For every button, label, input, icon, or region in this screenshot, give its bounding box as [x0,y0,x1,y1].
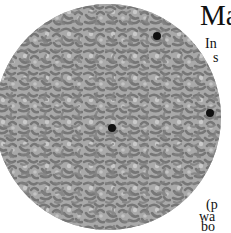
dark-inclusion [108,124,116,132]
blood-smear-texture [0,4,221,230]
heading-fragment: Ma [200,0,231,32]
micrograph-image [0,4,221,230]
body-text-fragment: co [201,231,214,233]
dark-inclusion [153,32,161,40]
dark-inclusion [206,109,214,117]
body-text-fragment: s [213,50,218,66]
